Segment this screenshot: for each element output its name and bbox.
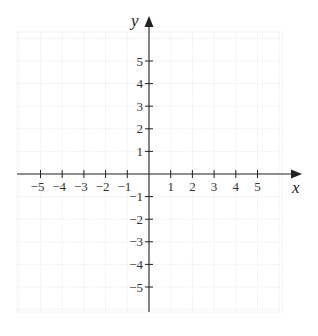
y-tick-label: 1 (137, 144, 144, 159)
y-tick-label: −1 (129, 189, 143, 204)
x-tick-label: −2 (96, 179, 110, 194)
coordinate-plane: x y −5−4−3−2−112345 54321−1−2−3−4−5 (0, 0, 318, 336)
y-tick-label: 2 (137, 121, 144, 136)
x-tick-label: 1 (167, 179, 174, 194)
x-tick-label: 5 (254, 179, 261, 194)
x-axis-label: x (291, 178, 300, 197)
y-tick-label: 5 (137, 54, 144, 69)
x-tick-label: −4 (52, 179, 66, 194)
y-tick-label: 4 (137, 76, 144, 91)
y-tick-label: −4 (129, 257, 143, 272)
x-tick-label: 2 (189, 179, 196, 194)
y-tick-label: −3 (129, 234, 143, 249)
y-tick-label: −5 (129, 280, 143, 295)
y-tick-label: −2 (129, 212, 143, 227)
axes: x y (17, 11, 302, 312)
x-tick-label: −3 (74, 179, 88, 194)
y-axis-arrow-icon (145, 16, 154, 27)
x-tick-label: 3 (211, 179, 218, 194)
x-tick-label: 4 (233, 179, 240, 194)
y-tick-label: 3 (137, 99, 144, 114)
x-tick-label: −5 (31, 179, 45, 194)
y-axis-label: y (129, 11, 139, 30)
